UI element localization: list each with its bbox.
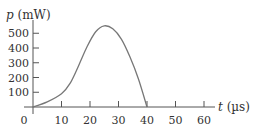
x-tick-label: 60 <box>197 114 211 127</box>
x-tick-label: 0 <box>21 114 28 127</box>
x-axis-label: t (µs) <box>218 100 250 114</box>
x-tick-label: 50 <box>169 114 183 127</box>
x-tick-label: 20 <box>83 114 97 127</box>
y-tick-label: 500 <box>8 27 29 40</box>
y-tick-label: 200 <box>8 72 29 85</box>
y-tick-label: 300 <box>8 57 29 70</box>
power-curve <box>33 26 147 107</box>
y-tick-label: 100 <box>8 86 29 99</box>
axis-ticks: 0102030405060100200300400500 <box>8 27 211 127</box>
x-tick-label: 30 <box>112 114 126 127</box>
x-tick-label: 40 <box>140 114 154 127</box>
y-axis-label: p (mW) <box>6 8 51 22</box>
power-vs-time-chart: 0102030405060100200300400500 p (mW) t (µ… <box>0 0 259 134</box>
y-tick-label: 400 <box>8 42 29 55</box>
x-tick-label: 10 <box>55 114 69 127</box>
